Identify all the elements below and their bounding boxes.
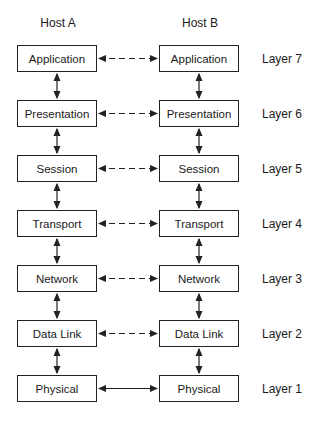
layer-number-label: Layer 4: [262, 217, 302, 231]
layer-number-label: Layer 7: [262, 52, 302, 66]
layer-number-label: Layer 5: [262, 162, 302, 176]
layer-number-label: Layer 3: [262, 272, 302, 286]
host-b-layer-box: Session: [159, 155, 239, 182]
host-a-layer-box: Physical: [17, 375, 97, 402]
host-b-layer-box: Presentation: [159, 100, 239, 127]
layer-number-label: Layer 1: [262, 382, 302, 396]
host-a-layer-box: Transport: [17, 210, 97, 237]
layer-number-label: Layer 6: [262, 107, 302, 121]
host-a-layer-box: Network: [17, 265, 97, 292]
host-a-layer-box: Application: [17, 45, 97, 72]
host-a-layer-box: Session: [17, 155, 97, 182]
host-b-layer-box: Application: [159, 45, 239, 72]
host-a-layer-box: Presentation: [17, 100, 97, 127]
host-b-layer-box: Transport: [159, 210, 239, 237]
layer-number-label: Layer 2: [262, 327, 302, 341]
host-a-layer-box: Data Link: [17, 320, 97, 347]
host-b-layer-box: Physical: [159, 375, 239, 402]
host-b-layer-box: Data Link: [159, 320, 239, 347]
host-b-layer-box: Network: [159, 265, 239, 292]
